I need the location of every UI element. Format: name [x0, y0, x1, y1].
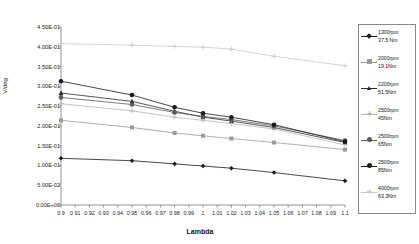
data-point-marker: [272, 141, 276, 145]
legend-label-line1: 2500rpm: [378, 159, 417, 167]
legend-label-line2: 51.5Nm: [378, 89, 417, 97]
data-point-marker: [201, 111, 206, 116]
legend-marker-icon: [361, 58, 377, 66]
legend-marker-icon: [361, 32, 377, 40]
data-point-marker: [172, 162, 177, 167]
data-point-marker: [130, 102, 135, 107]
data-point-marker: [229, 115, 234, 120]
data-point-marker: [229, 47, 234, 52]
data-point-marker: [130, 158, 135, 163]
legend-label: 2500rpm45Nm: [378, 107, 417, 122]
legend-label: 4000rpm63.3Nm: [378, 185, 417, 200]
data-point-marker: [343, 179, 348, 184]
legend-label-line2: 85Nm: [378, 167, 417, 175]
series-line: [61, 158, 345, 181]
data-point-marker: [59, 41, 64, 46]
data-point-marker: [59, 91, 64, 96]
legend-item[interactable]: 2000rpm19.1Nm: [359, 55, 417, 81]
legend-marker-icon: [361, 188, 377, 196]
data-point-marker: [272, 170, 277, 175]
legend-marker-icon: [361, 84, 377, 92]
data-point-marker: [343, 63, 348, 68]
data-point-marker: [201, 45, 206, 50]
legend-marker-icon: [361, 110, 377, 118]
data-point-marker: [172, 115, 177, 120]
legend-label: 1300rpm37.5 Nm: [378, 29, 417, 44]
data-point-marker: [59, 156, 64, 161]
legend-label: 2000rpm19.1Nm: [378, 55, 417, 70]
data-point-marker: [59, 79, 64, 84]
legend-label-line2: 63.3Nm: [378, 193, 417, 201]
legend-marker-icon: [361, 136, 377, 144]
legend-label: 2500rpm65Nm: [378, 133, 417, 148]
chart-legend: 1300rpm37.5 Nm2000rpm19.1Nm2200rpm51.5Nm…: [358, 24, 416, 214]
data-point-marker: [272, 122, 277, 127]
legend-label-line2: 45Nm: [378, 115, 417, 123]
data-point-marker: [201, 164, 206, 169]
legend-label-line2: 19.1Nm: [378, 63, 417, 71]
legend-label-line1: 2200rpm: [378, 81, 417, 89]
legend-label-line1: 2500rpm: [378, 107, 417, 115]
legend-item[interactable]: 2200rpm51.5Nm: [359, 81, 417, 107]
legend-label-line1: 1300rpm: [378, 29, 417, 37]
data-point-marker: [343, 148, 347, 152]
data-point-marker: [173, 131, 177, 135]
chart-container: V/deg Lambda 0.00E+005.00E-021.00E-011.5…: [0, 0, 419, 244]
data-point-marker: [229, 166, 234, 171]
data-point-marker: [59, 95, 64, 100]
legend-label-line1: 4000rpm: [378, 185, 417, 193]
legend-label-line1: 2000rpm: [378, 55, 417, 63]
data-point-marker: [59, 101, 64, 106]
legend-label-line1: 2500rpm: [378, 133, 417, 141]
legend-label: 2500rpm85Nm: [378, 159, 417, 174]
legend-item[interactable]: 1300rpm37.5 Nm: [359, 29, 417, 55]
legend-item[interactable]: 2500rpm85Nm: [359, 159, 417, 185]
legend-marker-icon: [361, 162, 377, 170]
data-point-marker: [59, 118, 63, 122]
data-point-marker: [172, 105, 177, 110]
data-point-marker: [343, 139, 348, 144]
legend-item[interactable]: 4000rpm63.3Nm: [359, 185, 417, 211]
legend-label-line2: 37.5 Nm: [378, 37, 417, 45]
data-point-marker: [172, 44, 177, 49]
legend-label-line2: 65Nm: [378, 141, 417, 149]
plot-area: [0, 0, 419, 244]
data-point-marker: [201, 134, 205, 138]
legend-label: 2200rpm51.5Nm: [378, 81, 417, 96]
data-point-marker: [172, 110, 177, 115]
data-point-marker: [130, 125, 134, 129]
data-point-marker: [272, 54, 277, 59]
legend-item[interactable]: 2500rpm65Nm: [359, 133, 417, 159]
legend-item[interactable]: 2500rpm45Nm: [359, 107, 417, 133]
data-point-marker: [229, 137, 233, 141]
data-point-marker: [130, 93, 135, 98]
data-point-marker: [130, 43, 135, 48]
data-point-marker: [130, 108, 135, 113]
